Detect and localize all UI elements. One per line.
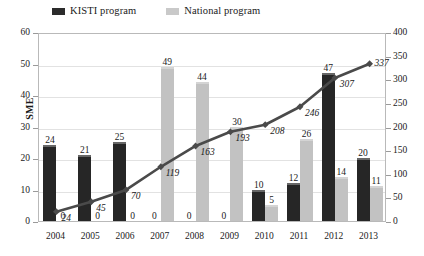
y-axis-left-tickmark [33,222,38,223]
x-axis-tick-label: 2005 [73,232,107,242]
legend-label-kisti: KISTI program [70,6,136,16]
line-value-label: 163 [201,148,215,158]
y-axis-right-tick-label: 350 [393,52,421,62]
y-axis-left-tick-label: 0 [4,217,30,227]
line-value-label: 45 [96,204,106,214]
y-axis-right-tick-label: 200 [393,123,421,133]
x-axis-tick-label: 2009 [212,232,246,242]
y-axis-left-tick-label: 30 [4,123,30,133]
legend-swatch-icon-national [166,8,179,15]
line-value-label: 208 [270,127,284,137]
chart-container: KISTI program National program SME 01020… [0,0,424,256]
legend-label-national: National program [184,6,260,16]
line-marker-diamond-icon [366,60,373,67]
line-value-label: 70 [131,192,141,202]
plot-area: 240210250049044030105122647142011 244570… [38,33,386,222]
x-axis-tick-label: 2006 [108,232,142,242]
y-axis-right-tick-label: 50 [393,193,421,203]
line-value-label: 24 [61,214,71,224]
x-axis-tick-label: 2012 [317,232,351,242]
x-axis-tick-label: 2004 [38,232,72,242]
y-axis-left-tick-label: 50 [4,60,30,70]
y-axis-right-tick-label: 0 [393,217,421,227]
line-series [39,34,387,223]
y-axis-right-tick-label: 300 [393,75,421,85]
x-axis-tick-label: 2011 [282,232,316,242]
line-value-label: 307 [340,80,354,90]
chart-legend: KISTI program National program [52,6,260,16]
line-value-label: 246 [305,109,319,119]
y-axis-left-tick-label: 10 [4,186,30,196]
y-axis-right-tick-label: 400 [393,28,421,38]
line-value-label: 337 [375,59,389,69]
x-axis-tick-label: 2008 [178,232,212,242]
line-marker-diamond-icon [53,208,60,215]
line-marker-diamond-icon [88,198,95,205]
y-axis-left-tick-label: 20 [4,154,30,164]
cumulative-line-path [56,64,369,212]
x-axis-tick-label: 2010 [247,232,281,242]
legend-swatch-icon-kisti [52,8,65,15]
x-axis-tick-label: 2013 [352,232,386,242]
y-axis-right-tick-label: 150 [393,146,421,156]
x-axis-tick-label: 2007 [143,232,177,242]
line-value-label: 193 [235,134,249,144]
y-axis-left-tick-label: 60 [4,28,30,38]
y-axis-right-tick-label: 250 [393,99,421,109]
y-axis-right-tick-label: 100 [393,170,421,180]
legend-item-national-program: National program [166,6,260,16]
line-marker-diamond-icon [227,128,234,135]
y-axis-left-tick-label: 40 [4,91,30,101]
line-value-label: 119 [166,169,180,179]
legend-item-kisti-program: KISTI program [52,6,136,16]
